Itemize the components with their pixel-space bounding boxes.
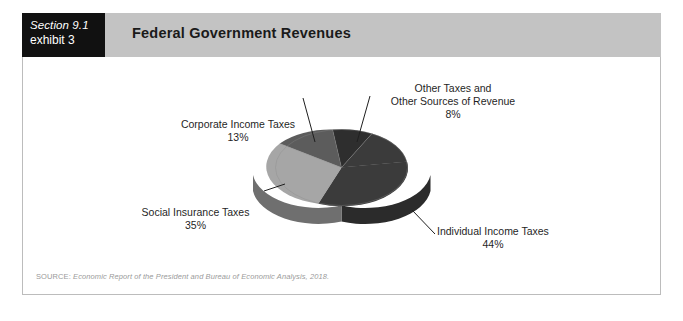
pie-label-social-percent: 35% <box>127 219 264 232</box>
leader-line-individual <box>412 210 435 234</box>
section-number: Section 9.1 <box>30 18 105 33</box>
pie-label-other-taxes: Other Taxes and Other Sources of Revenue… <box>388 82 518 121</box>
source-body: Economic Report of the President and Bur… <box>71 272 329 281</box>
page-title: Federal Government Revenues <box>132 25 351 41</box>
section-tab: Section 9.1 exhibit 3 <box>22 13 105 57</box>
pie-label-corporate-percent: 13% <box>172 131 304 144</box>
pie-label-other-percent: 8% <box>388 108 518 121</box>
source-label: SOURCE: <box>36 272 71 281</box>
pie-label-individual-income-taxes: Individual Income Taxes 44% <box>437 225 587 251</box>
pie-label-individual-line1: Individual Income Taxes <box>437 225 549 237</box>
exhibit-container: Section 9.1 exhibit 3 Federal Government… <box>0 0 683 321</box>
pie-label-other-line1: Other Taxes and <box>415 82 492 94</box>
pie-label-corporate-income-taxes: Corporate Income Taxes 13% <box>172 118 304 144</box>
pie-label-social-line1: Social Insurance Taxes <box>142 206 250 218</box>
pie-label-corporate-line1: Corporate Income Taxes <box>181 118 295 130</box>
pie-label-other-line2: Other Sources of Revenue <box>391 95 515 107</box>
pie-label-social-insurance-taxes: Social Insurance Taxes 35% <box>127 206 264 232</box>
source-note: SOURCE: Economic Report of the President… <box>36 272 329 281</box>
pie-label-individual-percent: 44% <box>437 238 549 251</box>
exhibit-number: exhibit 3 <box>30 33 105 48</box>
